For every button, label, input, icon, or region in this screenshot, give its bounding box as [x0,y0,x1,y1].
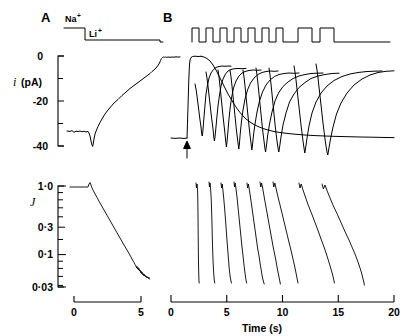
solution-change-arrow-icon [184,141,191,158]
time-axis-b [171,295,394,302]
current-trace-a [67,57,180,147]
flux-tick-1-0: 1·0 [38,180,53,192]
current-axis-label-symbol: i [13,75,16,89]
current-tick-minus40: -40 [33,140,48,152]
time-axis-a [74,296,141,302]
time-axis-b-tick-10: 10 [277,306,289,318]
flux-tick-0-3: 0·3 [38,221,53,233]
current-axis-label-units: (pA) [21,76,42,88]
flux-tick-0-03: 0·03 [32,281,53,293]
voltage-pulse-train-b [192,28,390,42]
solution-label-li: Li [89,29,97,39]
solution-label-na: Na [65,14,77,24]
time-axis-b-tick-15: 15 [332,306,344,318]
solution-label-li-charge: + [98,27,102,34]
solution-label-na-charge: + [77,12,81,19]
flux-trace-a [70,183,150,280]
figure-svg: A B Na + Li + 0 -20 -40 i (pA) [0,0,414,336]
flux-traces-b [196,182,364,285]
current-traces-b [171,56,394,155]
current-tick-minus20: -20 [33,95,48,107]
solution-step-trace-a [64,28,163,42]
flux-y-axis [58,186,66,287]
current-y-axis [58,56,64,146]
flux-tick-0-1: 0·1 [38,248,53,260]
flux-axis-label-symbol: J [30,195,36,209]
current-tick-0: 0 [37,50,43,62]
time-axis-b-tick-20: 20 [388,306,400,318]
panel-label-a: A [41,10,51,25]
figure-root: A B Na + Li + 0 -20 -40 i (pA) [0,0,414,336]
time-axis-b-tick-0: 0 [168,306,174,318]
time-axis-a-tick-5: 5 [138,306,144,318]
panel-label-b: B [163,10,172,25]
time-axis-b-tick-5: 5 [224,306,230,318]
time-axis-title: Time (s) [242,322,282,334]
time-axis-a-tick-0: 0 [71,306,77,318]
